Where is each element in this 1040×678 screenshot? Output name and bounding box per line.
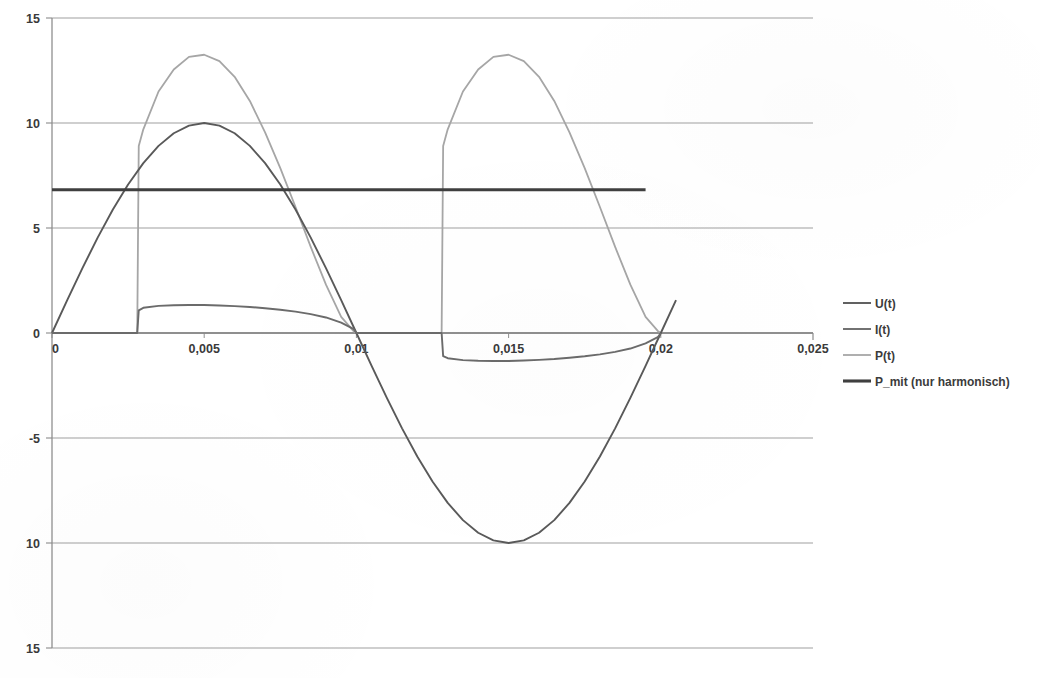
x-tick-label-3: 0,015 <box>493 342 524 356</box>
series-line-p-t- <box>52 55 661 333</box>
legend-label-2: P(t) <box>875 349 895 363</box>
x-tick-label-2: 0,01 <box>344 342 368 356</box>
chart-legend: U(t)I(t)P(t)P_mit (nur harmonisch) <box>843 297 1010 389</box>
x-tick-label-1: 0,005 <box>189 342 220 356</box>
y-tick-label-5: 10 <box>26 537 40 551</box>
chart-root: 151050-51015 00,0050,010,0150,020,025 U(… <box>0 0 1040 678</box>
y-tick-label-2: 5 <box>33 222 40 236</box>
y-tick-label-3: 0 <box>33 327 40 341</box>
y-axis-tick-labels: 151050-51015 <box>26 12 40 656</box>
y-tick-label-1: 10 <box>26 117 40 131</box>
x-tick-label-0: 0 <box>52 342 59 356</box>
x-tick-label-4: 0,02 <box>649 342 673 356</box>
x-tick-label-5: 0,025 <box>797 342 828 356</box>
x-axis-tick-labels: 00,0050,010,0150,020,025 <box>52 342 829 356</box>
y-tick-label-6: 15 <box>26 642 40 656</box>
data-series-group <box>52 55 676 543</box>
y-tick-label-4: -5 <box>29 432 40 446</box>
legend-label-1: I(t) <box>875 323 890 337</box>
y-tick-label-0: 15 <box>26 12 40 26</box>
legend-label-3: P_mit (nur harmonisch) <box>875 375 1010 389</box>
chart-canvas: 151050-51015 00,0050,010,0150,020,025 U(… <box>0 0 1040 678</box>
legend-label-0: U(t) <box>875 297 896 311</box>
